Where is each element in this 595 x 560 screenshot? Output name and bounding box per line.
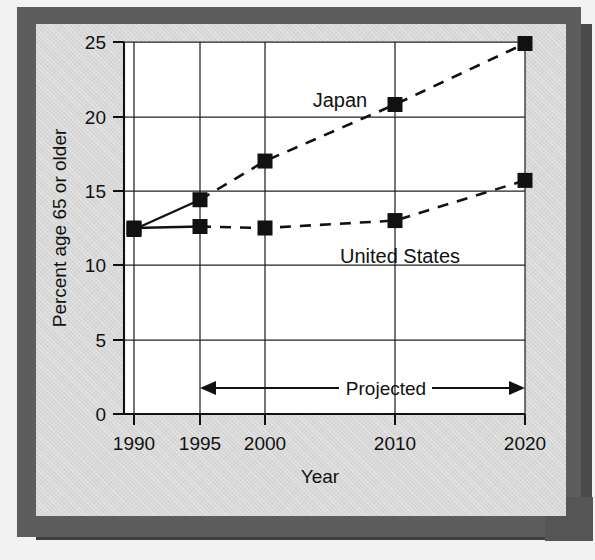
x-tick-label-2020: 2020: [504, 433, 546, 454]
data-point-marker-japan-2000: [258, 154, 273, 169]
data-point-marker-united-states-2010: [388, 213, 403, 228]
y-tick-label-5: 5: [95, 330, 106, 351]
data-point-marker-japan-2020: [518, 36, 533, 51]
data-point-marker-japan-1995: [193, 192, 208, 207]
data-point-marker-united-states-2020: [518, 173, 533, 188]
series-label-united-states: United States: [340, 245, 460, 267]
y-tick-label-15: 15: [85, 181, 106, 202]
y-tick-label-25: 25: [85, 32, 106, 53]
y-axis-ticks: [113, 42, 124, 414]
data-point-marker-united-states-1995: [193, 219, 208, 234]
line-chart: 25 20 15 10 5 0 1990 1995 2000 2010 2020…: [0, 0, 595, 560]
x-tick-label-1995: 1995: [179, 433, 221, 454]
y-tick-label-10: 10: [85, 255, 106, 276]
chart-figure: 25 20 15 10 5 0 1990 1995 2000 2010 2020…: [0, 0, 595, 560]
x-tick-label-2000: 2000: [244, 433, 286, 454]
projected-label: Projected: [346, 378, 426, 399]
y-axis-title: Percent age 65 or older: [49, 128, 70, 327]
x-axis-ticks: [134, 414, 525, 425]
data-point-marker-united-states-1990: [127, 221, 142, 236]
x-tick-label-2010: 2010: [374, 433, 416, 454]
x-tick-label-1990: 1990: [113, 433, 155, 454]
data-point-marker-japan-2010: [388, 97, 403, 112]
series-label-japan: Japan: [313, 89, 368, 111]
x-axis-title: Year: [301, 466, 340, 487]
y-tick-label-0: 0: [95, 404, 106, 425]
data-point-marker-united-states-2000: [258, 221, 273, 236]
y-tick-label-20: 20: [85, 107, 106, 128]
